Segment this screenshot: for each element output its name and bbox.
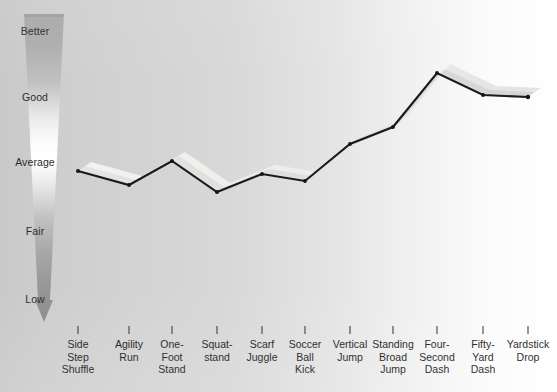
- chart-canvas: Better Good Average Fair Low SideStepShu…: [0, 0, 557, 392]
- scale-label-fair: Fair: [0, 225, 70, 237]
- x-axis-label-squat-stand: Squat-stand: [202, 338, 233, 363]
- scale-label-average: Average: [0, 156, 70, 168]
- scale-label-good: Good: [0, 91, 70, 103]
- x-axis-label-one-foot-stand: One-FootStand: [158, 338, 185, 376]
- x-axis-label-scarf-juggle: ScarfJuggle: [247, 338, 278, 363]
- x-axis-label-side-step-shuffle: SideStepShuffle: [62, 338, 95, 376]
- line-ribbon-3d: [78, 64, 541, 192]
- x-axis-label-agility-run: AgilityRun: [115, 338, 143, 363]
- x-axis-ticks: [78, 326, 528, 334]
- x-axis-label-yardstick-drop: YardstickDrop: [507, 338, 549, 363]
- x-axis-label-standing-broad-jump: StandingBroadJump: [372, 338, 413, 376]
- performance-line-chart: [0, 0, 557, 392]
- scale-label-low: Low: [0, 293, 70, 305]
- scale-arrow: [24, 14, 64, 322]
- x-axis-label-fifty-yard-dash: Fifty-YardDash: [471, 338, 496, 376]
- x-axis-label-vertical-jump: VerticalJump: [333, 338, 367, 363]
- scale-label-better: Better: [0, 25, 70, 37]
- x-axis-label-four-second-dash: Four-SecondDash: [419, 338, 455, 376]
- x-axis-label-soccer-ball-kick: SoccerBallKick: [289, 338, 322, 376]
